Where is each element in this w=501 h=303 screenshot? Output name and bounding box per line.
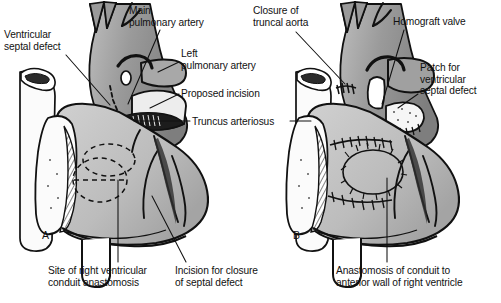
label-patch-for-ventricular-septal-defect: Patch for ventricular septal defect [420,62,476,97]
label-homograft-valve: Homograft valve [393,16,466,28]
panel-letter-b: B [293,229,300,241]
label-ventricular-septal-defect: Ventricular septal defect [4,29,60,52]
panel-a-vessel-lumen [121,71,131,85]
label-main-pulmonary-artery: Main pulmonary artery [129,5,204,28]
label-incision-for-closure-of-septal-defect: Incision for closure of septal defect [175,265,258,288]
label-closure-of-truncal-aorta: Closure of truncal aorta [253,5,308,28]
label-truncus-arteriosus: Truncus arteriosus [192,116,274,128]
label-proposed-incision: Proposed incision [181,88,260,100]
panel-letter-a: A [42,229,49,241]
label-site-of-right-ventricular-conduit-anastomosis: Site of right ventricular conduit anasto… [48,265,147,288]
label-anastomosis-of-conduit-to-anterior-wall: Anastomosis of conduit to anterior wall … [336,265,462,288]
label-left-pulmonary-artery: Left pulmonary artery [181,48,256,71]
heart-diagram-svg [0,0,501,303]
panel-a-left-pulmonary-artery [141,59,186,86]
medical-illustration-figure: Ventricular septal defect Main pulmonary… [0,0,501,303]
panel-b-heart [286,2,459,287]
